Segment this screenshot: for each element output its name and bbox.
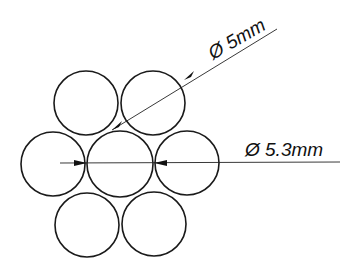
strand-circle-bottom-left: [55, 193, 119, 257]
strand-circle-bottom-right: [122, 192, 186, 256]
strand-circle-top-left: [54, 71, 118, 135]
center-diameter-label: Ø 5.3mm: [244, 139, 323, 160]
center-diameter-dimension-line: [60, 162, 340, 163]
strand-circle-top-right: [121, 71, 185, 135]
strand-circles: [21, 71, 219, 257]
center-diameter-dimension: Ø 5.3mm: [60, 139, 340, 166]
arrowhead-icon: [184, 71, 194, 80]
strand-circle-center: [87, 131, 153, 197]
strand-diameter-leader-line: [112, 29, 277, 130]
wire-strand-diagram: Ø 5mm Ø 5.3mm: [0, 0, 353, 274]
strand-diameter-label: Ø 5mm: [204, 14, 269, 64]
arrowhead-icon: [154, 160, 167, 166]
strand-diameter-dimension: Ø 5mm: [112, 14, 277, 130]
